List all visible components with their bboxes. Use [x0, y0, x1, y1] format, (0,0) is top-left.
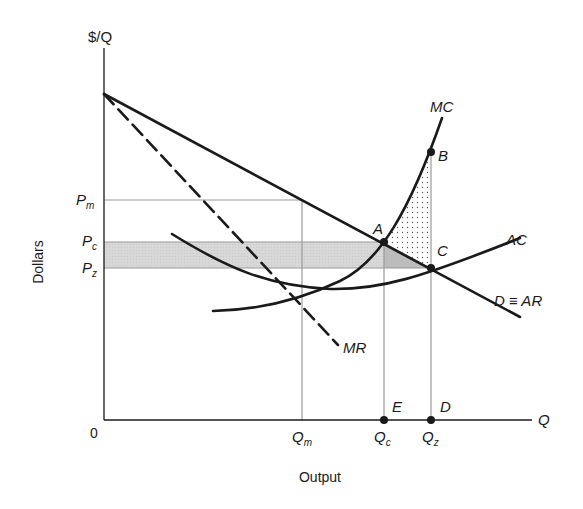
mr-label: MR: [343, 339, 366, 356]
point-a-label: A: [372, 220, 383, 237]
point-b-marker: [427, 148, 435, 156]
price-label-pc: Pc: [82, 232, 97, 252]
x-axis-end-label: Q: [538, 411, 550, 428]
point-c-label: C: [437, 242, 448, 259]
quantity-label-qc: Qc: [374, 428, 391, 448]
price-label-pz: Pz: [82, 259, 97, 279]
point-d-label: D: [440, 398, 451, 415]
demand-curve: [104, 94, 520, 317]
guide-lines: [104, 152, 431, 420]
point-e-label: E: [392, 398, 403, 415]
y-axis-top-label: $/Q: [88, 28, 112, 45]
quantity-label-qz: Qz: [422, 428, 439, 448]
ac-label: AC: [505, 231, 527, 248]
point-d-marker: [427, 416, 435, 424]
y-axis-title: Dollars: [30, 240, 46, 284]
origin-label: 0: [90, 425, 98, 441]
point-a-marker: [380, 238, 388, 246]
quantity-label-qm: Qm: [292, 428, 312, 448]
axes: [104, 48, 532, 420]
demand-label: D ≡ AR: [494, 292, 542, 309]
x-axis-title: Output: [299, 469, 341, 485]
point-b-label: B: [438, 147, 448, 164]
point-c-marker: [427, 264, 435, 272]
point-e-marker: [380, 416, 388, 424]
economics-diagram: $/Q Dollars Output Q 0 Pm Pc Pz Qm Qc Qz…: [0, 0, 583, 509]
price-label-pm: Pm: [76, 191, 94, 211]
marginal-revenue-curve: [104, 94, 338, 345]
mc-label: MC: [430, 98, 453, 115]
